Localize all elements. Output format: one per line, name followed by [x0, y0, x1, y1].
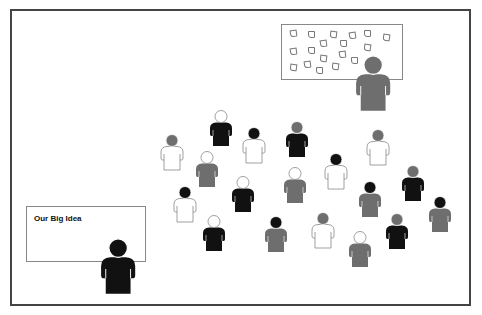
person-body [196, 164, 218, 188]
person-icon [347, 231, 373, 267]
person-body [232, 189, 254, 213]
person-icon [384, 213, 410, 249]
person-head [215, 111, 227, 123]
person-head [330, 154, 342, 166]
person-head [372, 130, 384, 142]
person-head [166, 135, 178, 147]
person-icon [310, 212, 336, 248]
person-head [208, 216, 220, 228]
person-icon [241, 127, 267, 163]
person-head [201, 152, 213, 164]
person-icon [323, 153, 349, 189]
sticky-note-icon [364, 44, 372, 52]
person-head [354, 232, 366, 244]
person-head [289, 168, 301, 180]
sticky-note-icon [316, 67, 323, 74]
board-title: Our Big Idea [34, 214, 82, 223]
sticky-note-icon [308, 31, 315, 38]
person-icon [172, 186, 198, 222]
sticky-note-icon [330, 31, 338, 39]
person-icon [365, 129, 391, 165]
person-icon [159, 134, 185, 170]
sticky-note-icon [320, 55, 328, 63]
sticky-note-icon [339, 51, 347, 59]
sticky-note-icon [340, 40, 347, 47]
person-icon [284, 121, 310, 157]
person-icon [194, 151, 220, 187]
sticky-note-icon [290, 64, 298, 72]
person-head [270, 217, 282, 229]
person-head [364, 182, 376, 194]
person-body [210, 123, 232, 147]
presenter-bottom-left-icon [98, 238, 138, 294]
person-icon [400, 165, 426, 201]
person-head [237, 177, 249, 189]
sticky-note-icon [290, 48, 298, 56]
person-icon [357, 181, 383, 217]
person-icon [230, 176, 256, 212]
sticky-note-icon [290, 30, 298, 38]
person-icon [282, 167, 308, 203]
person-icon [208, 110, 234, 146]
sticky-note-icon [349, 32, 357, 40]
person-head [179, 187, 191, 199]
presenter-top-right-icon [353, 55, 393, 111]
sticky-note-icon [383, 34, 391, 42]
sticky-note-icon [332, 63, 340, 71]
person-body [203, 228, 225, 252]
person-head [391, 214, 403, 226]
person-head [434, 197, 446, 209]
sticky-note-icon [320, 40, 328, 48]
sticky-note-icon [308, 47, 315, 54]
sticky-note-icon [364, 30, 371, 37]
person-head [317, 213, 329, 225]
sticky-note-icon [304, 61, 312, 69]
person-icon [263, 216, 289, 252]
person-head [407, 166, 419, 178]
person-icon [201, 215, 227, 251]
person-head [248, 128, 260, 140]
person-icon [427, 196, 453, 232]
person-head [109, 239, 128, 258]
person-head [291, 122, 303, 134]
person-head [364, 56, 383, 75]
